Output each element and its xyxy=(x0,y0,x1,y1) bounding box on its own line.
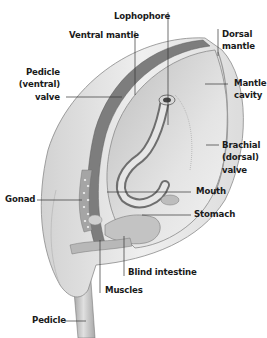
label-pedicle: Pedicle xyxy=(32,314,66,326)
label-gonad: Gonad xyxy=(5,193,35,205)
label-lophophore: Lophophore xyxy=(114,10,170,22)
label-dorsal-mantle: Dorsal mantle xyxy=(222,28,255,53)
label-brachial-valve: Brachial (dorsal) valve xyxy=(222,139,260,176)
label-muscles: Muscles xyxy=(105,284,143,296)
label-pedicle-valve: Pedicle (ventral) valve xyxy=(19,66,60,103)
label-blind-intestine: Blind intestine xyxy=(128,266,197,278)
label-stomach: Stomach xyxy=(194,208,235,220)
label-mantle-cavity: Mantle cavity xyxy=(234,77,266,102)
label-ventral-mantle: Ventral mantle xyxy=(69,29,139,41)
label-mouth: Mouth xyxy=(196,185,226,197)
